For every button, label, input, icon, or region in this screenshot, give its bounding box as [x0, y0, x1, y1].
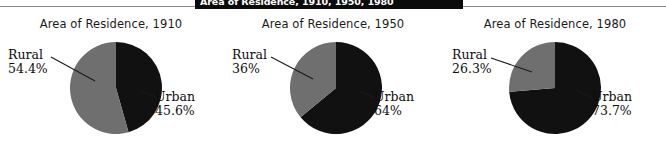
- pie-label-rural-1910: Rural 54.4%: [8, 48, 48, 76]
- pie-chart-1910: Area of Residence, 1910 Rural 54.4% Urba…: [0, 10, 222, 150]
- pie-label-urban-name-1950: Urban: [374, 90, 414, 104]
- pie-label-urban-1950: Urban 64%: [374, 90, 414, 118]
- pie-chart-1980: Area of Residence, 1980 Rural 26.3% Urba…: [444, 10, 666, 150]
- pie-graphic-1950: [287, 39, 385, 137]
- pie-chart-1950: Area of Residence, 1950 Rural 36% Urban …: [222, 10, 444, 150]
- pie-graphic-1980: [506, 39, 604, 137]
- figure-caption-banner: Area of Residence, 1910, 1950, 1980: [195, 0, 463, 9]
- pie-label-rural-1950: Rural 36%: [232, 48, 267, 76]
- pie-graphic-1910: [67, 39, 165, 137]
- pie-label-rural-1980: Rural 26.3%: [452, 48, 492, 76]
- pie-label-urban-value-1910: 45.6%: [155, 104, 195, 118]
- pie-label-rural-value-1950: 36%: [232, 62, 267, 76]
- pie-label-urban-name-1910: Urban: [155, 90, 195, 104]
- pie-slice-rural-1980: [509, 42, 555, 92]
- chart-title-1980: Area of Residence, 1980: [444, 17, 666, 31]
- pie-label-urban-name-1980: Urban: [592, 90, 632, 104]
- pie-label-rural-value-1910: 54.4%: [8, 62, 48, 76]
- pie-label-rural-value-1980: 26.3%: [452, 62, 492, 76]
- pie-label-urban-1910: Urban 45.6%: [155, 90, 195, 118]
- pie-label-urban-value-1980: 73.7%: [592, 104, 632, 118]
- pie-label-urban-value-1950: 64%: [374, 104, 414, 118]
- pie-label-rural-name-1980: Rural: [452, 48, 492, 62]
- pie-chart-row: Area of Residence, 1910 Rural 54.4% Urba…: [0, 10, 666, 150]
- pie-label-rural-name-1910: Rural: [8, 48, 48, 62]
- chart-title-1910: Area of Residence, 1910: [0, 17, 222, 31]
- figure-caption-text: Area of Residence, 1910, 1950, 1980: [200, 0, 394, 7]
- chart-title-1950: Area of Residence, 1950: [222, 17, 444, 31]
- pie-label-rural-name-1950: Rural: [232, 48, 267, 62]
- pie-label-urban-1980: Urban 73.7%: [592, 90, 632, 118]
